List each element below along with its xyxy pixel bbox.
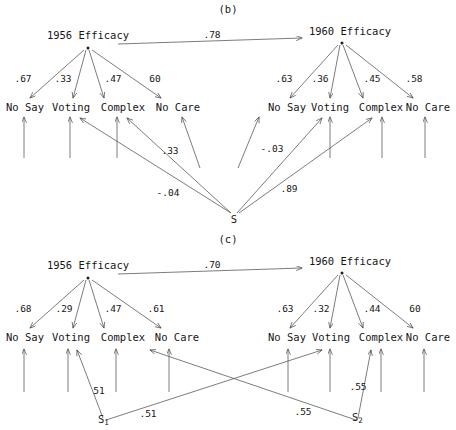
path-c-right-complex (343, 275, 363, 328)
indicator-b-left-nocare: No Care (156, 102, 200, 113)
coef-c-left-voting: .29 (55, 304, 72, 314)
indicator-c-right-nosay: No Say (268, 332, 306, 343)
indicator-c-left-voting: Voting (52, 332, 90, 343)
latent-c-1960: 1960 Efficacy (309, 256, 391, 267)
path-c-right-nocare (346, 275, 413, 328)
indicator-b-right-nocare: No Care (406, 102, 450, 113)
path-b-s-to-right-voting (237, 118, 322, 213)
latent-c-1956: 1956 Efficacy (47, 260, 129, 271)
indicator-c-right-nocare: No Care (406, 332, 450, 343)
figure-canvas: (b) 1956 Efficacy 1960 Efficacy .78 .67 … (0, 0, 456, 430)
coef-b-s-left-voting: -.04 (157, 188, 180, 198)
indicator-c-left-nosay: No Say (6, 332, 44, 343)
path-c-s2-to-left-complex (150, 350, 356, 420)
indicator-b-right-voting: Voting (311, 102, 349, 113)
latent-b-1956: 1956 Efficacy (47, 30, 129, 41)
coef-b-s-right-complex: .89 (280, 184, 297, 194)
coef-c-right-nosay: .63 (276, 304, 293, 314)
coef-b-s-right-voting: -.03 (261, 144, 284, 154)
indicator-b-left-voting: Voting (52, 102, 90, 113)
path-b-right-voting (330, 45, 340, 98)
panel-title-c: (c) (219, 234, 238, 245)
path-arrows-layer (0, 0, 456, 430)
coef-c-left-complex: .47 (104, 304, 121, 314)
indicator-c-right-voting: Voting (312, 332, 350, 343)
coef-c-left-nosay: .68 (14, 304, 31, 314)
indicator-b-left-nosay: No Say (6, 102, 44, 113)
coef-b-right-nocare: .58 (405, 74, 422, 84)
path-c-s1-to-right-voting (106, 350, 322, 420)
indicator-b-left-complex: Complex (101, 102, 145, 113)
response-factor-c-s2: S2 (352, 412, 363, 424)
indicator-b-right-nosay: No Say (268, 102, 306, 113)
path-b-s-to-left-voting (80, 118, 231, 213)
coef-b-left-nocare: 60 (149, 74, 160, 84)
response-factor-b-s: S (231, 214, 237, 225)
panel-title-b: (b) (219, 4, 238, 15)
coef-c-s2-left-complex: .55 (294, 407, 311, 417)
path-b-right-nocare (346, 45, 413, 98)
path-c-right-voting (330, 275, 340, 328)
coef-b-right-voting: .36 (311, 74, 328, 84)
coef-c-left-nocare: .61 (147, 304, 164, 314)
path-b-right-complex (343, 45, 363, 98)
residual-b-left-nocare (182, 117, 200, 168)
path-c-right-nosay (290, 275, 338, 328)
path-b-s-to-right-complex (239, 118, 372, 213)
path-b-s-to-left-complex (127, 118, 231, 213)
coef-c-s2-right-complex: .55 (349, 382, 366, 392)
path-b-left-voting (73, 50, 86, 98)
coef-b-left-voting: .33 (54, 74, 71, 84)
coef-c-right-complex: .44 (363, 304, 380, 314)
coef-c-stability: .70 (203, 260, 220, 270)
indicator-c-left-complex: Complex (101, 332, 145, 343)
response-factor-c-s1: S1 (98, 414, 109, 426)
indicator-b-right-complex: Complex (359, 102, 403, 113)
coef-c-right-nocare: 60 (409, 304, 420, 314)
response-factor-c-s1-subscript: 1 (104, 418, 109, 427)
indicator-c-right-complex: Complex (359, 332, 403, 343)
path-c-left-voting (73, 280, 86, 328)
coef-c-right-voting: .32 (312, 304, 329, 314)
coef-b-right-complex: .45 (363, 74, 380, 84)
coef-b-stability: .78 (203, 30, 220, 40)
coef-b-right-nosay: .63 (275, 74, 292, 84)
coef-b-s-left-complex: .33 (161, 146, 178, 156)
residual-b-right-nosay (238, 117, 259, 168)
coef-b-left-nosay: .67 (14, 74, 31, 84)
coef-c-s1-right-voting: .51 (139, 409, 156, 419)
response-factor-c-s2-subscript: 2 (358, 416, 363, 425)
path-b-right-nosay (290, 45, 338, 98)
latent-b-1960: 1960 Efficacy (309, 26, 391, 37)
coef-c-s1-left-voting: 51 (93, 386, 104, 396)
indicator-c-left-nocare: No Care (155, 332, 199, 343)
path-c-s1-to-left-voting (77, 350, 103, 418)
coef-b-left-complex: .47 (104, 74, 121, 84)
latent-node-dots (87, 42, 344, 280)
